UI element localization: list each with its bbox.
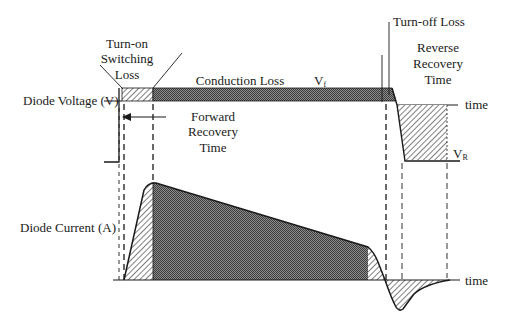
turn-on-label-1: Turn-on: [106, 36, 149, 51]
reverse-recovery-voltage-region: [397, 105, 447, 160]
turn-on-current-region: [124, 182, 153, 280]
conduction-current-region: [153, 182, 368, 280]
time-label-voltage: time: [465, 97, 488, 112]
time-label-current: time: [465, 273, 488, 288]
reverse-recovery-label-2: Recovery: [413, 56, 463, 71]
diode-current-axis-label: Diode Current (A): [20, 220, 116, 235]
conduction-loss-label: Conduction Loss: [196, 73, 284, 88]
turn-off-loss-label: Turn-off Loss: [393, 14, 465, 29]
forward-recovery-label-2: Recovery: [188, 124, 238, 139]
reverse-recovery-label-1: Reverse: [417, 40, 459, 55]
current-waveform: [113, 182, 460, 310]
diode-switching-diagram: Turn-on Switching Loss Conduction Loss V…: [0, 0, 506, 330]
turn-on-loss-region: [122, 88, 153, 101]
reverse-recovery-label-3: Time: [425, 72, 452, 87]
forward-recovery-label-3: Time: [200, 140, 227, 155]
vr-label: VR: [453, 146, 468, 162]
diode-voltage-axis-label: Diode Voltage (V): [23, 93, 119, 108]
turn-on-label-2: Switching: [101, 51, 154, 66]
conduction-loss-voltage-region: [153, 88, 396, 101]
voltage-waveform: [104, 88, 460, 162]
vf-label: Vf: [314, 73, 326, 89]
turn-on-label-3: Loss: [115, 67, 140, 82]
forward-recovery-label-1: Forward: [191, 109, 236, 124]
turn-on-leader-right: [153, 53, 182, 88]
